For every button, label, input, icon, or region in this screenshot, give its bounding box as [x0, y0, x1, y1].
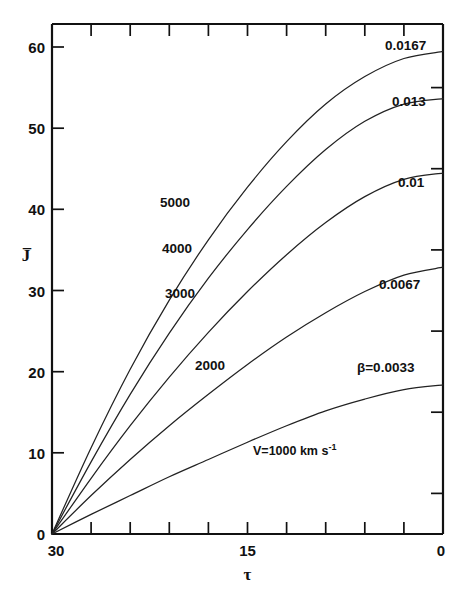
label-v4000: 4000	[162, 241, 192, 256]
label-beta-01: 0.01	[398, 175, 425, 190]
y-ticklabel-0: 0	[37, 526, 45, 543]
beta-labels: 0.0167 0.013 0.01 0.0067 β=0.0033	[357, 38, 426, 375]
label-v1000-text: V=1000 km s	[253, 444, 328, 458]
y-ticklabel-10: 10	[28, 445, 45, 462]
y-ticklabel-60: 60	[28, 39, 45, 56]
label-beta-0167: 0.0167	[385, 38, 426, 53]
y-axis-ticks	[52, 47, 64, 534]
x-axis-ticks-top	[91, 24, 404, 36]
y-ticklabel-40: 40	[28, 201, 45, 218]
curve-v5000	[52, 51, 443, 534]
y-axis-title: J̅	[22, 246, 32, 265]
y-ticklabel-30: 30	[28, 283, 45, 300]
label-v1000-exponent: -1	[328, 442, 336, 452]
x-ticklabel-0: 0	[437, 542, 445, 559]
label-beta-013: 0.013	[392, 94, 426, 109]
label-v3000: 3000	[165, 286, 195, 301]
x-ticklabel-30: 30	[48, 542, 65, 559]
curve-v3000	[52, 173, 443, 534]
chart-svg: 0 10 20 30 40 50 60 30 15 0 τ J̅ 5000 40…	[0, 0, 470, 600]
y-ticklabel-20: 20	[28, 364, 45, 381]
label-beta-0033: β=0.0033	[357, 360, 415, 375]
curve-group	[52, 51, 443, 534]
y-ticklabel-50: 50	[28, 120, 45, 137]
y-axis-ticks-right	[431, 88, 443, 494]
label-v5000: 5000	[160, 195, 190, 210]
x-axis-ticks	[91, 522, 404, 534]
curve-v4000	[52, 99, 443, 534]
y-tick-labels: 0 10 20 30 40 50 60	[28, 39, 45, 543]
x-axis-title: τ	[244, 565, 252, 584]
curve-v2000	[52, 267, 443, 534]
label-v2000: 2000	[195, 358, 225, 373]
label-beta-0067: 0.0067	[379, 277, 420, 292]
x-ticklabel-15: 15	[239, 542, 256, 559]
x-tick-labels: 30 15 0	[48, 542, 446, 559]
figure-container: 0 10 20 30 40 50 60 30 15 0 τ J̅ 5000 40…	[0, 0, 470, 600]
label-v1000: V=1000 km s-1	[253, 442, 336, 458]
